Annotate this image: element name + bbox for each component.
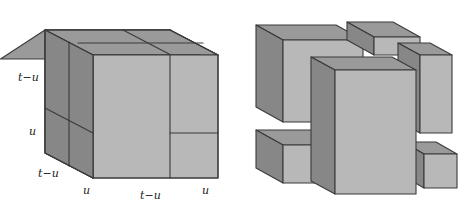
label-depth-u: u	[83, 184, 90, 197]
exploded-cube-panel	[256, 22, 457, 194]
label-vertical-t-minus-u: t−u	[18, 71, 39, 84]
label-width-t-minus-u: t−u	[140, 189, 161, 202]
figure-root: .f-top{fill:#9a9a9a;} .f-left{fill:#8787…	[0, 0, 472, 206]
front-face	[93, 55, 218, 178]
box-fm-left	[311, 57, 335, 194]
box-fm-front	[335, 70, 416, 194]
box-frb-front	[424, 154, 457, 188]
cube-decomposition-figure: .f-top{fill:#9a9a9a;} .f-left{fill:#8787…	[0, 0, 472, 206]
label-width-u: u	[202, 184, 209, 197]
box-rtc-front	[420, 55, 452, 133]
label-vertical-u: u	[29, 125, 36, 138]
box-btl-left	[256, 25, 283, 122]
label-depth-t-minus-u: t−u	[38, 167, 59, 180]
exploded-box-front-main	[311, 57, 416, 194]
cube-front-face	[93, 55, 218, 178]
